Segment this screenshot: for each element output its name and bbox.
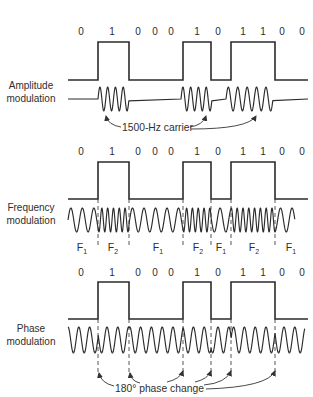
bit-label: 0 [215,146,221,157]
bit-label: 1 [240,146,246,157]
bit-label: 0 [168,26,174,37]
bit-label: 0 [279,146,285,157]
carrier-annotation: 1500-Hz carrier [122,122,194,133]
carrier-arrow-1 [106,116,121,127]
freq-label: F2 [249,241,259,255]
am-label-line1: Amplitude [9,80,54,91]
bit-label: 0 [152,26,158,37]
phase-section: 0 1 0 0 0 1 0 1 1 0 0 Phase modulation 1… [7,267,308,394]
carrier-arrow-3 [191,116,256,129]
bit-label: 0 [135,26,141,37]
bit-label: 0 [78,146,84,157]
freq-label: F1 [216,241,226,255]
bit-label: 0 [215,267,221,278]
bit-label: 1 [109,146,115,157]
bit-label: 0 [135,267,141,278]
bit-label: 1 [260,267,266,278]
bit-label: 1 [260,146,266,157]
am-digital-signal [68,42,308,80]
fm-waveform [68,208,295,232]
bit-label: 0 [168,146,174,157]
bit-label: 0 [152,146,158,157]
frequency-section: 0 1 0 0 0 1 0 1 1 0 0 Frequency modulati… [7,146,308,255]
freq-label: F1 [77,241,87,255]
phase-arrow-3 [167,371,183,382]
bit-labels: 0 1 0 0 0 1 0 1 1 0 0 [78,146,305,157]
pm-waveform [68,327,305,353]
fm-label-line1: Frequency [7,202,54,213]
freq-label: F1 [153,241,163,255]
bit-label: 0 [78,267,84,278]
bit-label: 0 [279,26,285,37]
bit-label: 0 [299,26,305,37]
bit-label: 0 [78,26,84,37]
bit-label: 1 [109,267,115,278]
am-carrier-waveform [68,87,308,111]
bit-label: 0 [135,146,141,157]
bit-label: 0 [152,267,158,278]
modulation-diagram: 0 1 0 0 0 1 0 1 1 0 0 Amplitude modulati… [0,0,313,397]
bit-label: 1 [194,146,200,157]
bit-label: 0 [215,26,221,37]
phase-arrow-1 [99,373,114,386]
bit-label: 0 [168,267,174,278]
phase-arrow-5 [204,371,231,385]
bit-label: 1 [240,267,246,278]
bit-label: 0 [299,267,305,278]
frequency-labels: F1 F2 F1 F2 F1 F2 F1 [77,241,296,255]
am-label-line2: modulation [7,93,56,104]
fm-label-line2: modulation [7,215,56,226]
bit-label: 1 [194,267,200,278]
bit-label: 1 [260,26,266,37]
phase-change-annotation: 180° phase change [115,383,204,394]
bit-label: 1 [194,26,200,37]
freq-label: F1 [286,241,296,255]
freq-label: F2 [193,241,203,255]
bit-label: 0 [299,146,305,157]
bit-labels: 0 1 0 0 0 1 0 1 1 0 0 [78,267,305,278]
freq-label: F2 [108,241,118,255]
bit-label: 1 [240,26,246,37]
amplitude-section: 0 1 0 0 0 1 0 1 1 0 0 Amplitude modulati… [7,26,308,133]
fm-digital-signal [68,162,308,199]
bit-label: 1 [109,26,115,37]
bit-labels: 0 1 0 0 0 1 0 1 1 0 0 [78,26,305,37]
phase-arrow-6 [206,371,275,389]
phase-arrow-2 [130,373,140,383]
bit-label: 0 [279,267,285,278]
fm-dashed-guides [98,199,275,246]
phase-arrow-4 [195,371,211,382]
pm-label-line2: modulation [7,336,56,347]
pm-digital-signal [68,282,308,319]
pm-label-line1: Phase [17,323,46,334]
